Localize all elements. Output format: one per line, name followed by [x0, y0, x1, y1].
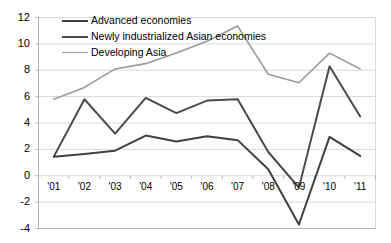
legend-line-swatch — [62, 52, 88, 53]
y-tick-label: -2 — [4, 196, 30, 207]
x-tick-label: '05 — [163, 182, 189, 192]
legend-item: Newly industrialized Asian economies — [62, 30, 266, 43]
legend-line-swatch — [62, 36, 88, 38]
x-tick-label: '07 — [225, 182, 251, 192]
legend-item-label: Developing Asia — [91, 47, 166, 58]
y-tick-label: 6 — [4, 91, 30, 102]
y-tick-label: 10 — [4, 38, 30, 49]
y-tick-label: 0 — [4, 170, 30, 181]
legend-item: Advanced economies — [62, 14, 266, 27]
x-tick-label: '10 — [317, 182, 343, 192]
x-tick-label: '06 — [194, 182, 220, 192]
line-chart: 121086420-2-4 '01'02'03'04'05'06'07'08'0… — [0, 0, 391, 243]
y-tick-label: -4 — [4, 223, 30, 234]
y-tick-label: 4 — [4, 117, 30, 128]
y-tick-label: 2 — [4, 143, 30, 154]
chart-legend: Advanced economiesNewly industrialized A… — [62, 14, 266, 62]
legend-item: Developing Asia — [62, 46, 266, 59]
y-tick-label: 8 — [4, 64, 30, 75]
x-tick-label: '03 — [102, 182, 128, 192]
legend-line-swatch — [62, 20, 88, 22]
x-tick-label: '08 — [255, 182, 281, 192]
x-tick-label: '02 — [71, 182, 97, 192]
y-tick-label: 12 — [4, 12, 30, 23]
series-line-1 — [54, 66, 360, 187]
legend-item-label: Newly industrialized Asian economies — [91, 31, 266, 42]
x-tick-label: '11 — [347, 182, 373, 192]
x-tick-label: '04 — [133, 182, 159, 192]
x-tick-label: '09 — [286, 182, 312, 192]
x-tick-label: '01 — [41, 182, 67, 192]
legend-item-label: Advanced economies — [91, 15, 191, 26]
